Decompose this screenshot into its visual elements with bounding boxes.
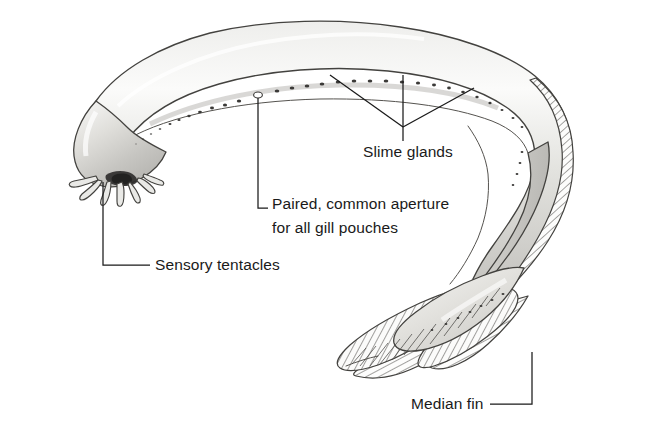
label-gill-aperture-line2: for all gill pouches bbox=[272, 219, 398, 236]
slime-pore bbox=[223, 104, 227, 107]
slime-pore bbox=[384, 79, 389, 82]
slime-pore bbox=[516, 173, 519, 175]
slime-pore bbox=[457, 317, 460, 319]
tentacle-5 bbox=[128, 182, 140, 203]
leader-median-fin bbox=[490, 352, 532, 404]
slime-pore bbox=[150, 133, 152, 135]
slime-pore bbox=[502, 293, 505, 295]
hagfish-diagram-svg: Slime glands Paired, common aperture for… bbox=[0, 0, 656, 433]
slime-pore bbox=[521, 151, 524, 153]
slime-pore bbox=[135, 143, 137, 145]
gill-aperture-ring bbox=[254, 92, 263, 98]
slime-pore bbox=[368, 79, 373, 82]
slime-pore bbox=[521, 126, 524, 128]
leader-gill-aperture bbox=[258, 98, 268, 208]
slime-pore bbox=[320, 82, 325, 85]
slime-pore bbox=[445, 323, 448, 325]
slime-pore bbox=[475, 96, 478, 98]
figure-labels: Slime glands Paired, common aperture for… bbox=[155, 143, 484, 412]
slime-pore bbox=[210, 107, 214, 110]
slime-pore bbox=[275, 89, 280, 92]
slime-pore bbox=[169, 123, 172, 125]
slime-pore bbox=[480, 305, 483, 307]
slime-pore bbox=[177, 119, 180, 121]
slime-pore bbox=[416, 82, 420, 85]
slime-pore bbox=[305, 84, 310, 87]
slime-pore bbox=[519, 162, 522, 164]
slime-pore bbox=[237, 100, 241, 103]
label-gill-aperture-line1: Paired, common aperture bbox=[272, 195, 449, 212]
slime-pore bbox=[432, 84, 436, 87]
slime-pore bbox=[512, 184, 515, 186]
slime-pore bbox=[187, 115, 190, 117]
slime-pore bbox=[198, 111, 202, 114]
slime-pore bbox=[290, 86, 295, 89]
slime-pore bbox=[488, 102, 491, 104]
slime-pore bbox=[447, 87, 451, 90]
hagfish-anatomy-figure: Slime glands Paired, common aperture for… bbox=[0, 0, 656, 433]
slime-pore bbox=[501, 109, 504, 111]
slime-pore bbox=[352, 79, 357, 82]
label-median-fin: Median fin bbox=[411, 395, 484, 412]
label-slime-glands: Slime glands bbox=[363, 143, 453, 160]
label-sensory-tentacles: Sensory tentacles bbox=[155, 256, 280, 273]
tentacle-4 bbox=[117, 182, 124, 206]
slime-pore bbox=[469, 311, 472, 313]
slime-pore bbox=[142, 138, 144, 140]
slime-pore bbox=[431, 329, 434, 331]
slime-pore bbox=[512, 117, 515, 119]
body-shadow-lower bbox=[150, 85, 498, 124]
slime-pore bbox=[491, 299, 494, 301]
slime-pore bbox=[159, 128, 162, 130]
